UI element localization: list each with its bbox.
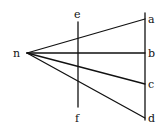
ray-na: [27, 19, 145, 53]
label-c: c: [148, 78, 154, 91]
label-b: b: [148, 47, 155, 60]
ray-nd: [27, 53, 145, 118]
label-e: e: [74, 8, 81, 21]
label-n: n: [13, 47, 20, 60]
label-a: a: [148, 13, 155, 26]
label-f: f: [75, 112, 80, 125]
label-d: d: [148, 112, 155, 125]
diagram-canvas: n e f a b c d: [0, 0, 167, 136]
ray-diagram: n e f a b c d: [0, 0, 167, 136]
ray-nc: [27, 53, 145, 84]
